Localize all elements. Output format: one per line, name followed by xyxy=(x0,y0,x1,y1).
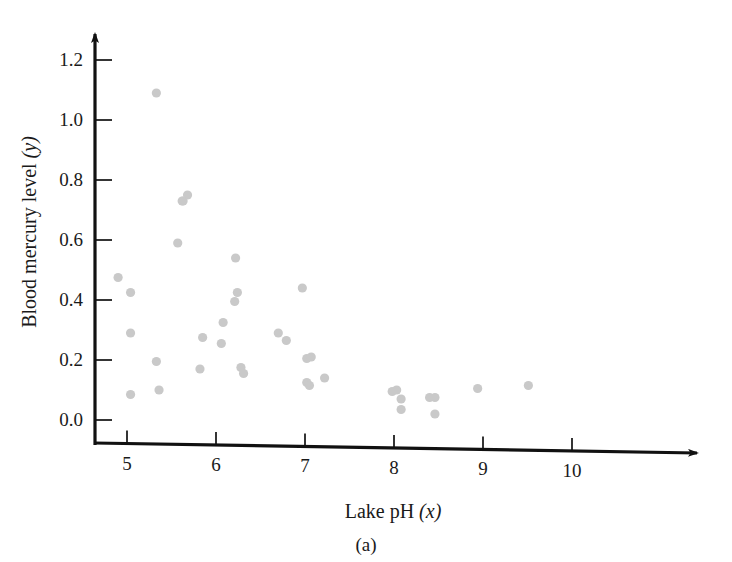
data-point xyxy=(219,318,228,327)
figure-container: 56789100.00.20.40.60.81.01.2 Lake pH (x)… xyxy=(0,0,732,562)
figure-caption: (a) xyxy=(355,534,376,556)
data-point xyxy=(152,88,161,97)
y-tick-label-0.6: 0.6 xyxy=(59,229,83,250)
data-point xyxy=(217,339,226,348)
y-tick-label-1.0: 1.0 xyxy=(59,109,83,130)
y-tick-label-0.8: 0.8 xyxy=(59,169,83,190)
x-tick-label-8: 8 xyxy=(389,457,399,478)
y-tick-label-0.0: 0.0 xyxy=(59,409,83,430)
x-axis-title: Lake pH (x) xyxy=(345,500,442,523)
axis-labels-layer: Lake pH (x)Blood mercury level (y)(a) xyxy=(18,136,442,556)
x-tick-label-10: 10 xyxy=(563,460,582,481)
data-point xyxy=(233,288,242,297)
data-point xyxy=(473,384,482,393)
data-point xyxy=(126,328,135,337)
scatter-plot: 56789100.00.20.40.60.81.01.2 Lake pH (x)… xyxy=(0,0,732,562)
data-point xyxy=(152,357,161,366)
x-tick-label-5: 5 xyxy=(122,453,132,474)
y-axis-title: Blood mercury level (y) xyxy=(18,136,41,328)
y-tick-label-0.2: 0.2 xyxy=(59,349,83,370)
data-point xyxy=(305,381,314,390)
data-point xyxy=(195,364,204,373)
data-point xyxy=(239,369,248,378)
data-point xyxy=(392,385,401,394)
x-tick-label-9: 9 xyxy=(478,458,488,479)
data-point xyxy=(430,393,439,402)
data-point xyxy=(320,373,329,382)
y-axis-title-variable: (y) xyxy=(18,136,41,159)
data-point xyxy=(154,385,163,394)
data-point xyxy=(114,273,123,282)
x-tick-label-7: 7 xyxy=(300,455,310,476)
data-point xyxy=(298,283,307,292)
ticks-layer: 56789100.00.20.40.60.81.01.2 xyxy=(59,49,581,481)
x-axis-title-text: Lake pH xyxy=(345,500,419,523)
data-points-layer xyxy=(114,88,533,418)
x-tick-label-6: 6 xyxy=(211,454,221,475)
data-point xyxy=(397,394,406,403)
x-axis-title-variable: (x) xyxy=(419,500,442,523)
y-axis-title-text: Blood mercury level xyxy=(18,158,41,327)
y-tick-label-1.2: 1.2 xyxy=(59,49,83,70)
data-point xyxy=(126,390,135,399)
data-point xyxy=(178,196,187,205)
data-point xyxy=(173,238,182,247)
data-point xyxy=(198,333,207,342)
data-point xyxy=(274,328,283,337)
data-point xyxy=(524,381,533,390)
x-axis-line xyxy=(94,443,697,453)
data-point xyxy=(397,405,406,414)
data-point xyxy=(230,297,239,306)
data-point xyxy=(307,352,316,361)
data-point xyxy=(282,336,291,345)
data-point xyxy=(231,253,240,262)
y-tick-label-0.4: 0.4 xyxy=(59,289,83,310)
data-point xyxy=(126,288,135,297)
data-point xyxy=(430,409,439,418)
